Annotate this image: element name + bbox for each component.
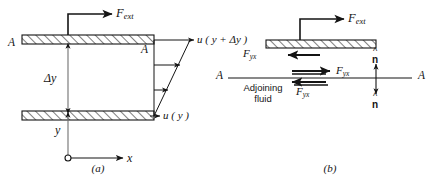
bottom-plate-a (22, 111, 154, 120)
adjoining-fluid-label: Adjoining fluid (234, 83, 292, 105)
top-plate-b (266, 40, 376, 48)
shear-force-upper-arrow (292, 71, 330, 74)
shear-force-upper-label: Fyx (336, 65, 349, 78)
normal-vector-up-label: ^n (372, 50, 378, 65)
external-force-arrow-b (300, 19, 344, 40)
interface-label-left: A (216, 70, 223, 82)
section-label-a: A (141, 44, 148, 56)
y-label: y (55, 124, 60, 136)
figure-container: Fext A A Δy y x u ( y + Δy ) u ( y ) (a)… (0, 0, 441, 185)
caption-b: (b) (318, 163, 342, 174)
external-force-arrow-a (68, 14, 112, 35)
top-plate-a (22, 35, 154, 44)
shear-force-lower-label: Fyx (296, 86, 309, 99)
velocity-bottom-label: u ( y ) (163, 110, 189, 121)
gap-label: Δy (44, 72, 56, 84)
velocity-profile-envelope (154, 40, 190, 116)
normal-vector-down-label: ^n (372, 95, 378, 110)
caption-a: (a) (86, 163, 110, 174)
external-force-label-a: Fext (116, 7, 134, 21)
shear-force-plate-label: Fyx (243, 48, 256, 61)
interface-label-right: A (418, 70, 425, 82)
external-force-label-b: Fext (348, 12, 366, 26)
x-label: x (127, 152, 132, 164)
velocity-top-label: u ( y + Δy ) (197, 34, 247, 45)
origin-marker (65, 155, 71, 161)
plate-label-a-left: A (8, 37, 15, 49)
